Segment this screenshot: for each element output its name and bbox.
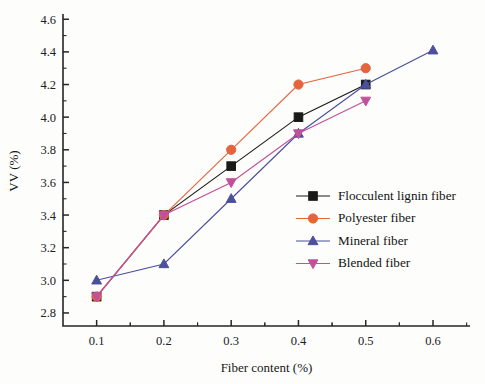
legend-item-polyester-fiber[interactable]: Polyester fiber [296,210,416,225]
y-tick-label: 2.8 [40,306,56,320]
x-tick-label: 0.2 [156,334,172,348]
x-tick-label: 0.5 [358,334,374,348]
y-axis-title: VV (%) [6,150,21,191]
legend-label-mineral-fiber: Mineral fiber [338,233,409,248]
legend-item-mineral-fiber[interactable]: Mineral fiber [296,233,409,248]
y-tick-label: 3.6 [40,176,56,190]
x-tick-label: 0.3 [223,334,239,348]
chart-figure: 2.83.03.23.43.63.84.04.24.44.60.10.20.30… [0,0,485,384]
axes-layer: 2.83.03.23.43.63.84.04.24.44.60.10.20.30… [40,13,470,348]
series-flocculent-lignin-fiber [92,80,370,301]
x-tick-label: 0.1 [89,334,105,348]
series-line-flocculent-lignin-fiber [97,85,366,297]
legend-item-flocculent-lignin-fiber[interactable]: Flocculent lignin fiber [296,188,457,203]
y-tick-label: 3.0 [40,274,56,288]
data-point-polyester-fiber [227,145,236,154]
legend-marker-blended-fiber [308,260,318,269]
legend-item-blended-fiber[interactable]: Blended fiber [296,255,411,270]
legend-label-blended-fiber: Blended fiber [338,255,411,270]
y-tick-label: 3.2 [40,241,56,255]
x-tick-label: 0.4 [291,334,307,348]
legend-layer: Flocculent lignin fiberPolyester fiberMi… [296,188,457,271]
x-axis-title: Fiber content (%) [221,360,313,375]
x-tick-label: 0.6 [425,334,441,348]
legend-marker-polyester-fiber [308,214,317,223]
data-point-flocculent-lignin-fiber [227,162,236,171]
data-point-flocculent-lignin-fiber [294,113,303,122]
legend-label-polyester-fiber: Polyester fiber [338,210,416,225]
y-tick-label: 3.8 [40,143,56,157]
legend-marker-mineral-fiber [308,236,318,245]
legend-label-flocculent-lignin-fiber: Flocculent lignin fiber [338,188,457,203]
series-mineral-fiber [92,45,438,284]
y-tick-label: 4.2 [40,78,56,92]
data-point-polyester-fiber [294,80,303,89]
data-point-blended-fiber [361,97,371,106]
legend-marker-flocculent-lignin-fiber [309,192,318,201]
data-point-blended-fiber [226,179,236,188]
data-point-polyester-fiber [361,64,370,73]
axis-frame [63,14,470,326]
y-tick-label: 3.4 [40,209,56,223]
y-tick-label: 4.0 [40,111,56,125]
line-chart-svg: 2.83.03.23.43.63.84.04.24.44.60.10.20.30… [0,0,485,384]
y-tick-label: 4.4 [40,45,56,59]
y-tick-label: 4.6 [40,13,56,27]
data-point-mineral-fiber [428,45,438,54]
